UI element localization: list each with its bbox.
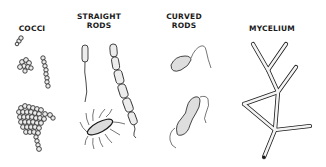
grape-cluster-drawing [17, 104, 56, 152]
vibrio-drawing [171, 46, 211, 71]
strepto-chain-drawing [41, 56, 50, 88]
mycelium-drawing [244, 44, 310, 159]
diplococcus-drawing [15, 36, 23, 46]
flagellated-rod-drawing [82, 45, 88, 102]
microbe-illustrations [0, 0, 326, 167]
peritrichous-rod-drawing [80, 109, 125, 149]
spirillum-drawing [170, 96, 209, 148]
staph-cluster-drawing [18, 58, 34, 74]
